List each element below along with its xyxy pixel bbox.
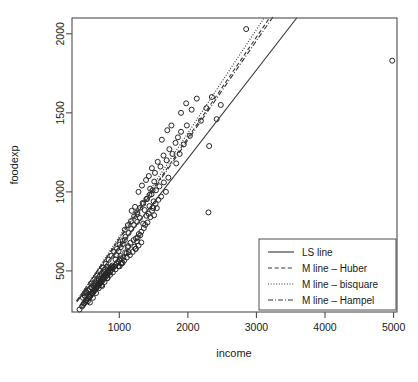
legend-entry-label: M line – bisquare xyxy=(302,279,379,290)
x-axis-tick-label: 2000 xyxy=(176,321,200,333)
y-axis-tick-label: 2000 xyxy=(54,22,66,46)
x-axis-tick-label: 5000 xyxy=(382,321,406,333)
y-axis-tick-label: 500 xyxy=(54,262,66,280)
x-axis-title: income xyxy=(216,347,251,359)
legend[interactable]: LS lineM line – HuberM line – bisquareM … xyxy=(259,239,396,310)
legend-entry-label: M line – Hampel xyxy=(302,295,374,306)
x-axis-tick-label: 1000 xyxy=(108,321,132,333)
y-axis-tick-label: 1500 xyxy=(54,101,66,125)
x-axis-tick-label: 3000 xyxy=(245,321,269,333)
y-axis-tick-label: 1000 xyxy=(54,180,66,204)
chart-canvas: 10002000300040005000 500100015002000 inc… xyxy=(0,0,418,382)
x-axis-tick-label: 4000 xyxy=(313,321,337,333)
legend-entry-label: LS line xyxy=(302,247,333,258)
scatter-plot-figure: 10002000300040005000 500100015002000 inc… xyxy=(0,0,418,382)
legend-entry-label: M line – Huber xyxy=(302,263,368,274)
y-axis-title: foodexp xyxy=(8,145,20,184)
